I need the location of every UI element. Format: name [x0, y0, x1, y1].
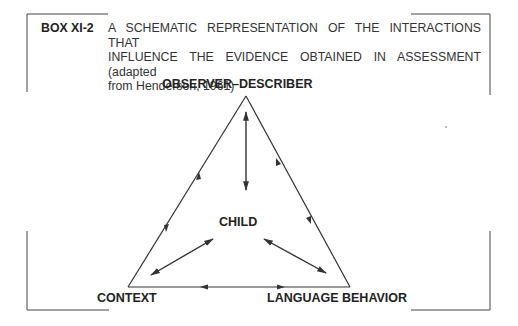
- edge-child-context: [151, 239, 213, 275]
- arrow-right-bottom-edge: [277, 285, 285, 290]
- edge-observer-context: [128, 96, 246, 287]
- edge-child-language: [264, 239, 326, 273]
- arrow-left-bottom-edge: [200, 285, 208, 290]
- caption-line-2: INFLUENCE THE EVIDENCE OBTAINED IN ASSES…: [108, 50, 481, 79]
- arrow-down-right-edge: [306, 216, 311, 224]
- frame-bottom-right: [411, 231, 490, 310]
- node-language-behavior: LANGUAGE BEHAVIOR: [267, 291, 407, 305]
- node-observer-describer: OBSERVER–DESCRIBER: [162, 77, 313, 91]
- node-context: CONTEXT: [97, 291, 157, 305]
- caption-line-1: A SCHEMATIC REPRESENTATION OF THE INTERA…: [108, 21, 481, 50]
- node-child: CHILD: [219, 215, 257, 229]
- box-number: BOX XI-2: [41, 21, 94, 36]
- speck: [445, 126, 447, 128]
